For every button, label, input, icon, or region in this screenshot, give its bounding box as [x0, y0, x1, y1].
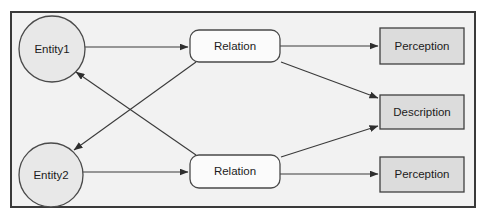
perception-bottom-box[interactable] [380, 157, 464, 192]
node-perception-bottom[interactable]: Perception [380, 157, 464, 192]
perception-top-box[interactable] [380, 28, 464, 64]
node-relation-bottom[interactable]: Relation [190, 155, 280, 188]
entity1-circle[interactable] [19, 16, 85, 82]
node-entity2[interactable]: Entity2 [19, 143, 83, 207]
relation-bottom-box[interactable] [190, 155, 280, 188]
node-entity1[interactable]: Entity1 [19, 16, 85, 82]
node-description[interactable]: Description [380, 95, 464, 129]
description-box[interactable] [380, 95, 464, 129]
node-relation-top[interactable]: Relation [190, 30, 280, 62]
entity2-circle[interactable] [19, 143, 83, 207]
diagram-svg: Entity1 Entity2 Relation Relation Percep… [0, 0, 484, 219]
relation-top-box[interactable] [190, 30, 280, 62]
node-perception-top[interactable]: Perception [380, 28, 464, 64]
diagram-canvas: Entity1 Entity2 Relation Relation Percep… [0, 0, 484, 219]
